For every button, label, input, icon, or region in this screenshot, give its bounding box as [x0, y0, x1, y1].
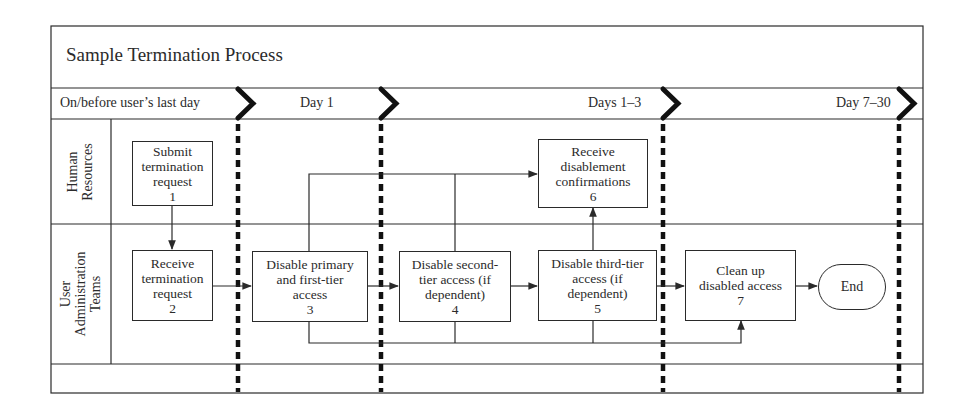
step-1-submit-termination-request: Submit termination request 1	[132, 141, 213, 206]
step-text: dependent)	[425, 287, 485, 302]
step-text: Clean up	[716, 263, 764, 278]
step-text: Submit	[153, 144, 192, 159]
step-text: request	[153, 174, 192, 189]
diagram-title: Sample Termination Process	[66, 44, 283, 66]
step-number: 6	[590, 189, 597, 204]
outer-frame	[51, 26, 923, 393]
phase-chevrons	[238, 89, 914, 118]
phase-label-day-7-30: Day 7–30	[836, 92, 891, 114]
step-number: 3	[307, 302, 314, 317]
step-text: and first-tier	[276, 272, 343, 287]
step-text: confirmations	[556, 174, 631, 189]
end-terminal: End	[818, 264, 886, 310]
step-4-disable-second-tier: Disable second- tier access (if dependen…	[399, 251, 511, 322]
phase-label-day-1: Day 1	[300, 92, 334, 114]
phase-label-days-1-3: Days 1–3	[588, 92, 641, 114]
step-text: termination	[141, 271, 203, 286]
phase-label-last-day: On/before user’s last day	[60, 92, 200, 114]
step-text: disabled access	[699, 278, 782, 293]
step-text: access	[293, 287, 327, 302]
step-3-disable-primary-first-tier: Disable primary and first-tier access 3	[252, 251, 368, 322]
lane-label-human-resources: Human Resources	[65, 132, 97, 212]
lane-label-user-administration-teams: User Administration Teams	[58, 244, 104, 344]
step-text: disablement	[560, 159, 625, 174]
step-number: 2	[169, 301, 176, 316]
step-text: Disable primary	[266, 257, 353, 272]
step-number: 5	[594, 301, 601, 316]
lane-label-line: Human	[65, 132, 80, 212]
step-7-clean-up-disabled-access: Clean up disabled access 7	[685, 250, 796, 321]
step-text: Disable third-tier	[551, 256, 644, 271]
step-text: Receive	[151, 256, 194, 271]
step-text: request	[153, 286, 192, 301]
step-text: access (if	[572, 271, 623, 286]
lane-label-line: Administration	[73, 244, 88, 344]
step-text: dependent)	[568, 286, 628, 301]
step-text: Disable second-	[412, 257, 499, 272]
step-text: tier access (if	[419, 272, 491, 287]
step-5-disable-third-tier: Disable third-tier access (if dependent)…	[538, 250, 657, 321]
step-number: 7	[737, 293, 744, 308]
step-number: 1	[169, 189, 176, 204]
lane-label-line: User	[58, 244, 73, 344]
step-number: 4	[452, 302, 459, 317]
step-text: Receive	[571, 144, 614, 159]
step-6-receive-disablement-confirmations: Receive disablement confirmations 6	[538, 139, 648, 208]
termination-process-diagram: Sample Termination Process On/before use…	[0, 0, 973, 415]
step-text: termination	[141, 159, 203, 174]
step-2-receive-termination-request: Receive termination request 2	[132, 250, 213, 321]
lane-label-line: Teams	[88, 244, 103, 344]
lane-label-line: Resources	[80, 132, 95, 212]
